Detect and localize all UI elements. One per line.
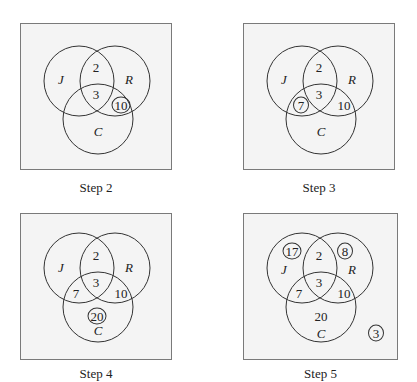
region-jc-value: 7 bbox=[73, 287, 80, 300]
region-jr-value: 2 bbox=[316, 249, 323, 262]
region-outside-value-circled: 3 bbox=[368, 325, 384, 342]
set-label-c: C bbox=[317, 125, 326, 138]
set-label-j: J bbox=[58, 73, 64, 86]
set-label-r: R bbox=[348, 73, 356, 86]
region-jr-value: 2 bbox=[93, 61, 100, 74]
region-jc-value-circled: 7 bbox=[293, 97, 309, 114]
set-label-j: J bbox=[58, 261, 64, 274]
region-jc-value: 7 bbox=[296, 287, 303, 300]
region-c-only-value: 20 bbox=[315, 310, 328, 323]
set-label-c: C bbox=[94, 125, 103, 138]
region-rc-value: 10 bbox=[115, 287, 128, 300]
universal-set-box: J R C 2 3 10 7 bbox=[243, 23, 395, 170]
region-jrc-value: 3 bbox=[316, 276, 323, 289]
step-caption: Step 4 bbox=[20, 366, 172, 382]
region-j-only-value-circled: 17 bbox=[283, 243, 302, 260]
region-rc-value: 10 bbox=[338, 99, 351, 112]
universal-set-box: J R C 2 3 10 7 20 bbox=[20, 213, 172, 360]
region-jrc-value: 3 bbox=[93, 276, 100, 289]
set-label-c: C bbox=[94, 324, 103, 337]
set-label-r: R bbox=[348, 263, 356, 276]
universal-set-box: J R C 2 3 10 bbox=[20, 23, 172, 170]
region-rc-value-circled: 10 bbox=[112, 97, 131, 114]
set-label-j: J bbox=[281, 73, 287, 86]
region-jrc-value: 3 bbox=[316, 88, 323, 101]
set-label-r: R bbox=[125, 261, 133, 274]
region-rc-value: 10 bbox=[338, 287, 351, 300]
set-label-c: C bbox=[317, 327, 326, 340]
set-label-r: R bbox=[125, 73, 133, 86]
step-caption: Step 5 bbox=[243, 366, 398, 382]
region-jrc-value: 3 bbox=[93, 88, 100, 101]
step-caption: Step 3 bbox=[243, 180, 395, 196]
universal-set-box: J R C 17 8 2 3 10 7 20 3 bbox=[243, 213, 398, 360]
region-c-only-value-circled: 20 bbox=[88, 308, 107, 325]
region-jr-value: 2 bbox=[93, 249, 100, 262]
region-jr-value: 2 bbox=[316, 61, 323, 74]
circle-j bbox=[44, 46, 114, 116]
region-r-only-value-circled: 8 bbox=[337, 243, 353, 260]
set-label-j: J bbox=[281, 263, 287, 276]
step-caption: Step 2 bbox=[20, 180, 172, 196]
